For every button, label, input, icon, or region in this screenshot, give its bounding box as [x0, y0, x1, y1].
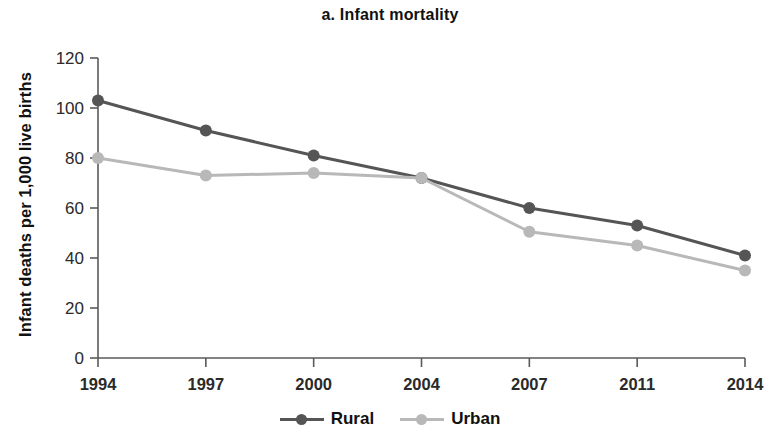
- infant-mortality-chart: a. Infant mortality Infant deaths per 1,…: [0, 0, 780, 435]
- x-axis: 1994199720002004200720112014: [80, 358, 765, 393]
- x-tick-label: 2011: [619, 375, 655, 393]
- data-series-group: [92, 95, 751, 277]
- data-point-rural: [308, 150, 320, 162]
- data-point-urban: [92, 152, 104, 164]
- y-tick-label: 20: [65, 299, 84, 318]
- legend-dot-icon: [296, 414, 307, 425]
- data-point-urban: [523, 226, 535, 238]
- y-tick-label: 100: [56, 99, 84, 118]
- y-tick-label: 60: [65, 199, 84, 218]
- y-tick-label: 80: [65, 149, 84, 168]
- legend-swatch-rural: [280, 412, 324, 426]
- y-tick-label: 120: [56, 49, 84, 68]
- x-tick-label: 2000: [295, 375, 332, 393]
- data-point-rural: [631, 220, 643, 232]
- x-tick-label: 1997: [187, 375, 224, 393]
- x-tick-label: 1994: [80, 375, 118, 393]
- x-tick-label: 2007: [511, 375, 548, 393]
- legend-swatch-urban: [400, 412, 444, 426]
- y-tick-label: 40: [65, 249, 84, 268]
- data-point-urban: [308, 167, 320, 179]
- legend-dot-icon: [416, 414, 427, 425]
- legend: RuralUrban: [0, 409, 780, 429]
- x-tick-label: 2014: [727, 375, 765, 393]
- data-point-rural: [523, 202, 535, 214]
- data-point-rural: [92, 95, 104, 107]
- data-point-urban: [631, 240, 643, 252]
- data-point-urban: [416, 172, 428, 184]
- data-point-urban: [739, 265, 751, 277]
- plot-area: 020406080100120 199419972000200420072011…: [0, 0, 780, 400]
- x-tick-label: 2004: [403, 375, 441, 393]
- legend-entry-rural[interactable]: Rural: [280, 409, 374, 429]
- data-point-rural: [739, 250, 751, 262]
- data-point-rural: [200, 125, 212, 137]
- data-point-urban: [200, 170, 212, 182]
- legend-label: Urban: [451, 409, 500, 429]
- legend-entry-urban[interactable]: Urban: [400, 409, 500, 429]
- y-axis: 020406080100120: [56, 49, 98, 368]
- y-tick-label: 0: [75, 349, 84, 368]
- legend-label: Rural: [331, 409, 374, 429]
